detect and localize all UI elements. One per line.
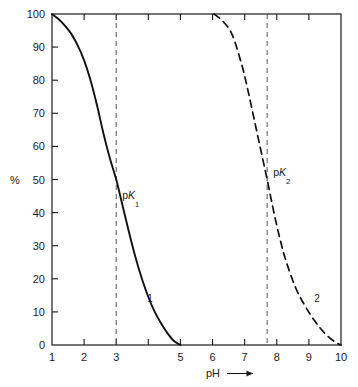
y-tick-label: 10 (33, 306, 45, 318)
chart-background (0, 0, 358, 387)
x-tick-label: 3 (113, 351, 119, 363)
x-tick-label: 7 (242, 351, 248, 363)
y-tick-label: 50 (33, 174, 45, 186)
y-tick-label: 40 (33, 207, 45, 219)
x-tick-label: 10 (335, 351, 347, 363)
y-tick-label: 0 (39, 339, 45, 351)
x-axis-label: pH (206, 367, 220, 379)
x-tick-label: 9 (306, 351, 312, 363)
curve-label-2: 2 (314, 293, 320, 304)
y-tick-label: 80 (33, 74, 45, 86)
y-axis-label: % (10, 174, 20, 186)
x-tick-label: 2 (81, 351, 87, 363)
x-tick-label: 8 (274, 351, 280, 363)
y-tick-label: 70 (33, 107, 45, 119)
y-tick-label: 30 (33, 240, 45, 252)
x-tick-label: 1 (49, 351, 55, 363)
y-tick-label: 60 (33, 140, 45, 152)
titration-curve-chart: 1235678910 0102030405060708090100 12 pK1… (0, 0, 358, 387)
chart-figure: 1235678910 0102030405060708090100 12 pK1… (0, 0, 358, 387)
y-tick-label: 20 (33, 273, 45, 285)
y-tick-label: 100 (27, 8, 45, 20)
curve-label-1: 1 (147, 293, 153, 304)
x-tick-label: 5 (177, 351, 183, 363)
x-tick-label: 6 (209, 351, 215, 363)
y-tick-label: 90 (33, 41, 45, 53)
